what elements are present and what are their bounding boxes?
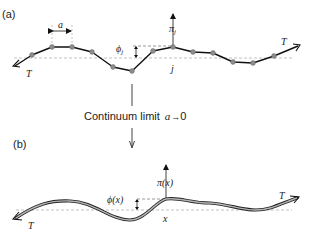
phi-x-label: ϕ(x) (107, 194, 124, 206)
pi-x-label: π(x) (157, 177, 174, 189)
panel-b-label: (b) (13, 138, 26, 150)
phi-j-label: ϕj (116, 43, 123, 56)
phi-j-indicator: ϕj (116, 43, 173, 58)
panel-a-label: (a) (2, 8, 15, 20)
pi-x-indicator: π(x) x (157, 165, 174, 224)
beads (30, 45, 277, 74)
spacing-a-label: a (58, 19, 63, 30)
lattice-spacing-indicator: a (52, 19, 72, 45)
tension-left-b: T (28, 220, 35, 231)
continuum-limit-text: Continuum limita→0 (84, 110, 186, 122)
pi-j-indicator: πj j (169, 14, 176, 74)
tension-right-a: T (281, 36, 288, 47)
site-x-label: x (162, 213, 168, 224)
phi-x-indicator: ϕ(x) (107, 194, 166, 210)
pi-j-label: πj (169, 23, 176, 36)
site-j-label: j (169, 63, 174, 74)
tension-right-b: T (279, 190, 286, 201)
diagram-canvas: (a) a ϕj πj j T T Continuum limita→0 (0, 0, 309, 234)
tension-left-a: T (26, 68, 33, 79)
discrete-chain (15, 46, 298, 71)
